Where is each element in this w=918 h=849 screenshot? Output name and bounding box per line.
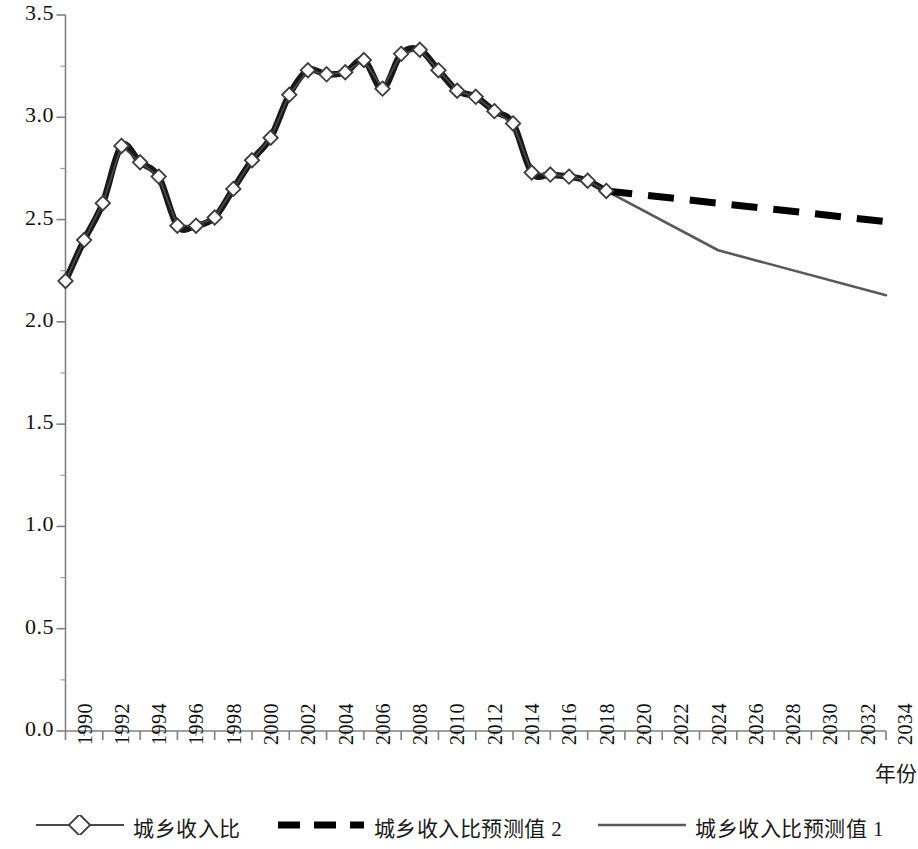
y-axis-tick-label: 0.0 — [0, 716, 54, 742]
x-axis-tick-label: 2004 — [335, 703, 358, 745]
x-axis-tick-label: 2032 — [857, 703, 880, 745]
chart-legend: 城乡收入比 城乡收入比预测值 2 城乡收入比预测值 1 — [0, 805, 918, 849]
x-axis-tick-label: 2026 — [745, 703, 768, 745]
observed-trend-band — [66, 48, 607, 281]
x-axis-tick-label: 2034 — [894, 703, 917, 745]
y-axis-tick-label: 3.5 — [0, 0, 54, 26]
x-axis-tick-label: 2024 — [708, 703, 731, 745]
x-axis-tick-label: 2018 — [596, 703, 619, 745]
chart-axes — [66, 15, 887, 731]
x-axis-tick-label: 2010 — [446, 703, 469, 745]
x-axis-tick-label: 2002 — [297, 703, 320, 745]
x-axis-tick-label: 2016 — [558, 703, 581, 745]
x-axis-tick-label: 1996 — [185, 703, 208, 745]
x-axis-tick-label: 2014 — [521, 703, 544, 745]
x-axis-tick-label: 1990 — [74, 703, 97, 745]
x-axis-tick-label: 2020 — [633, 703, 656, 745]
thin-solid-line-icon — [596, 815, 688, 839]
x-axis-tick-label: 2028 — [782, 703, 805, 745]
legend-label-observed: 城乡收入比 — [133, 812, 241, 842]
thick-dashed-line-icon — [275, 815, 367, 839]
x-axis-tick-label: 1998 — [223, 703, 246, 745]
x-axis-tick-label: 1994 — [148, 703, 171, 745]
y-axis-ticks — [57, 15, 66, 731]
y-axis-tick-label: 2.0 — [0, 307, 54, 333]
x-axis-tick-label: 1992 — [111, 703, 134, 745]
data-point-marker — [562, 169, 576, 183]
chart-series-group — [58, 43, 886, 296]
legend-item-observed[interactable]: 城乡收入比 — [34, 812, 241, 842]
legend-item-forecast-1[interactable]: 城乡收入比预测值 1 — [596, 812, 884, 842]
y-axis-tick-label: 0.5 — [0, 614, 54, 640]
y-axis-tick-label: 1.0 — [0, 511, 54, 537]
y-axis-tick-label: 3.0 — [0, 102, 54, 128]
x-axis-tick-label: 2012 — [484, 703, 507, 745]
legend-label-forecast-1: 城乡收入比预测值 1 — [695, 812, 884, 842]
y-axis-tick-label: 2.5 — [0, 205, 54, 231]
data-point-marker — [543, 167, 557, 181]
data-point-marker — [319, 67, 333, 81]
x-axis-title: 年份 — [875, 757, 917, 787]
x-axis-tick-label: 2008 — [409, 703, 432, 745]
y-axis-tick-label: 1.5 — [0, 409, 54, 435]
forecast-2-series-line — [606, 191, 886, 222]
x-axis-tick-label: 2006 — [372, 703, 395, 745]
legend-item-forecast-2[interactable]: 城乡收入比预测值 2 — [275, 812, 563, 842]
x-axis-tick-label: 2000 — [260, 703, 283, 745]
x-axis-tick-label: 2030 — [819, 703, 842, 745]
x-axis-tick-label: 2022 — [670, 703, 693, 745]
legend-label-forecast-2: 城乡收入比预测值 2 — [374, 812, 563, 842]
chart-container: 0.00.51.01.52.02.53.03.5 199019921994199… — [0, 0, 918, 849]
line-with-diamond-marker-icon — [34, 815, 126, 839]
